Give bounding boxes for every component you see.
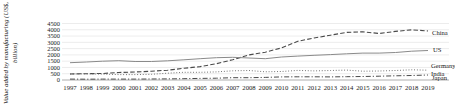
x-tick-label: 2011: [291, 84, 304, 91]
manufacturing-value-added-chart: Value added by manufacturing (US$, billi…: [0, 0, 455, 105]
y-tick-label: 3000: [47, 39, 60, 46]
y-tick-label: 1500: [47, 57, 60, 64]
x-tick-label: 1997: [63, 84, 77, 91]
x-tick-label: 2018: [405, 84, 419, 91]
x-tick-label: 2003: [161, 84, 175, 91]
x-tick-label: 2007: [226, 84, 240, 91]
x-tick-label: 2017: [389, 84, 403, 91]
series-label-japan: Japan: [432, 74, 448, 81]
series-line-india: [70, 75, 428, 79]
x-tick-label: 2014: [340, 84, 354, 91]
x-tick-label: 2008: [242, 84, 256, 91]
series-line-us: [70, 51, 428, 63]
x-tick-label: 2006: [210, 84, 224, 91]
x-tick-label: 2019: [421, 84, 435, 91]
x-tick-label: 2013: [324, 84, 338, 91]
series-label-us: US: [433, 46, 442, 53]
series-label-china: China: [432, 29, 448, 36]
y-tick-label: 4500: [47, 20, 60, 27]
series-label-germany: Germany: [431, 62, 455, 69]
y-tick-label: 2000: [47, 51, 60, 58]
x-tick-label: 2000: [112, 84, 126, 91]
y-tick-label: 0: [57, 76, 60, 83]
line-chart-canvas: 0500100015002000250030003500400045001997…: [0, 0, 455, 105]
x-tick-label: 1998: [80, 84, 94, 91]
x-tick-label: 2005: [193, 84, 207, 91]
x-tick-label: 2002: [145, 84, 158, 91]
x-tick-label: 2001: [128, 84, 141, 91]
x-tick-label: 2016: [372, 84, 386, 91]
y-tick-label: 2500: [47, 45, 60, 52]
x-tick-label: 2009: [259, 84, 273, 91]
y-tick-label: 1000: [47, 64, 60, 71]
x-tick-label: 2015: [356, 84, 370, 91]
x-tick-label: 2004: [177, 84, 191, 91]
x-tick-label: 1999: [96, 84, 110, 91]
y-tick-label: 4000: [47, 26, 60, 33]
y-tick-label: 500: [50, 70, 60, 77]
y-tick-label: 3500: [47, 32, 60, 39]
x-tick-label: 2010: [275, 84, 289, 91]
x-tick-label: 2012: [307, 84, 320, 91]
